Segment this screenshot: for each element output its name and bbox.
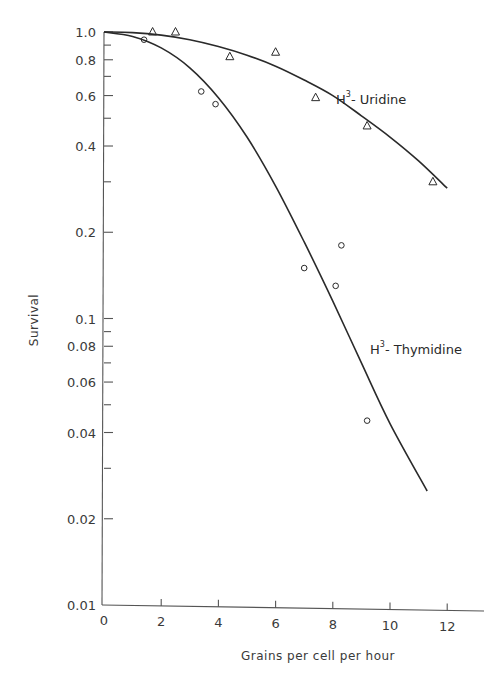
y-tick-label: 0.4: [75, 139, 96, 154]
triangle-marker: [429, 177, 437, 185]
data-points: [141, 28, 437, 424]
series-label-circle: H3- Thymidine: [370, 340, 462, 357]
circle-marker: [213, 101, 219, 107]
x-tick-label: 6: [271, 616, 279, 631]
triangle-marker: [312, 93, 320, 101]
y-axis-title: Survival: [27, 294, 41, 346]
axes: [102, 32, 484, 611]
x-tick-label: 12: [439, 619, 456, 634]
triangle-marker: [226, 52, 234, 60]
survival-chart: 1.00.80.60.40.20.10.080.060.040.020.01 0…: [0, 0, 504, 677]
y-tick-label: 0.01: [67, 598, 96, 613]
triangle-marker: [272, 48, 280, 56]
y-tick-label: 0.04: [67, 426, 96, 441]
x-axis-ticks: 024681012: [100, 599, 456, 634]
y-tick-label: 1.0: [75, 25, 96, 40]
y-axis-line: [102, 32, 104, 605]
y-tick-label: 0.2: [75, 225, 96, 240]
y-tick-label: 0.1: [75, 312, 96, 327]
y-axis-ticks: 1.00.80.60.40.20.10.080.060.040.020.01: [67, 25, 113, 613]
y-tick-label: 0.06: [67, 375, 96, 390]
x-tick-label: 8: [329, 617, 337, 632]
x-axis-line: [102, 605, 484, 611]
x-tick-label: 10: [382, 618, 399, 633]
triangle-marker: [172, 28, 180, 36]
x-tick-label: 2: [157, 614, 165, 629]
x-tick-label: 4: [214, 615, 222, 630]
x-axis-title: Grains per cell per hour: [241, 649, 395, 663]
circle-marker: [364, 418, 370, 424]
circle-marker: [301, 265, 307, 271]
y-tick-label: 0.02: [67, 512, 96, 527]
y-tick-label: 0.6: [75, 89, 96, 104]
circle-marker: [333, 283, 339, 289]
y-tick-label: 0.8: [75, 53, 96, 68]
x-tick-label: 0: [100, 613, 108, 628]
series-labels: H3- UridineH3- Thymidine: [336, 90, 462, 357]
circle-marker: [198, 89, 204, 95]
circle-marker: [339, 243, 345, 249]
y-tick-label: 0.08: [67, 339, 96, 354]
